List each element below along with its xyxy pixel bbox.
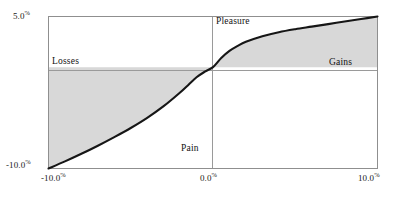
x-axis-tick-mid-value: 0.0: [200, 173, 212, 183]
chart-plot-area: [0, 0, 401, 199]
x-axis-tick-left-unit: %: [60, 171, 66, 178]
annotation-pleasure: Pleasure: [216, 16, 250, 26]
x-axis-tick-left: -10.0%: [41, 173, 66, 183]
y-axis-tick-top-unit: %: [25, 9, 31, 16]
x-axis-tick-mid: 0.0%: [200, 173, 217, 183]
x-axis-tick-right-unit: %: [374, 171, 380, 178]
annotation-gains: Gains: [329, 57, 352, 67]
annotation-pain: Pain: [181, 143, 199, 153]
y-axis-tick-top-value: 5.0: [13, 11, 25, 21]
y-axis-tick-bottom-value: -10.0: [6, 160, 25, 170]
x-axis-tick-mid-unit: %: [212, 171, 218, 178]
value-function-chart: 5.0% -10.0% -10.0% 0.0% 10.0% Losses Gai…: [0, 0, 401, 199]
annotation-losses: Losses: [52, 56, 79, 66]
x-axis-tick-right: 10.0%: [358, 173, 380, 183]
y-axis-tick-bottom-unit: %: [25, 158, 31, 165]
y-axis-tick-top: 5.0%: [13, 11, 30, 21]
x-axis-tick-right-value: 10.0: [358, 173, 374, 183]
y-axis-tick-bottom: -10.0%: [6, 160, 31, 170]
x-axis-tick-left-value: -10.0: [41, 173, 60, 183]
